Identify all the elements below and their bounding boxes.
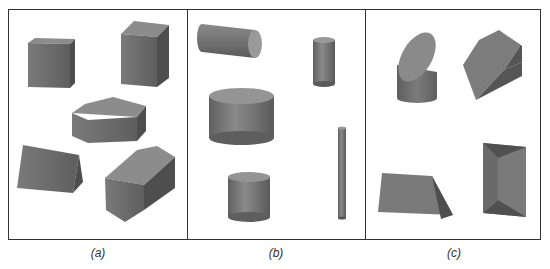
panel-c [366, 10, 541, 239]
panel-b [188, 10, 365, 239]
cube-shape [28, 38, 75, 88]
panel-c-label: (c) [434, 246, 474, 260]
panel-a [9, 10, 187, 239]
panel-a-label: (a) [78, 246, 118, 260]
wedge-shape [378, 173, 453, 219]
pentagonal-prism-shape [72, 97, 146, 143]
frustum-prism-shape [483, 143, 526, 217]
wide-cylinder-shape [209, 88, 274, 145]
truncated-cylinder-shape [391, 26, 444, 103]
hexagonal-prism-shape [105, 146, 175, 222]
rectangular-prism-shape [121, 21, 169, 87]
small-cylinder-shape [313, 37, 335, 87]
hexagonal-solid-shape [463, 30, 522, 100]
triangular-prism-shape [17, 145, 83, 193]
short-cylinder-shape [228, 172, 270, 222]
horizontal-cylinder-shape [197, 24, 262, 58]
thin-rod-shape [338, 127, 346, 220]
panel-b-label: (b) [256, 246, 296, 260]
